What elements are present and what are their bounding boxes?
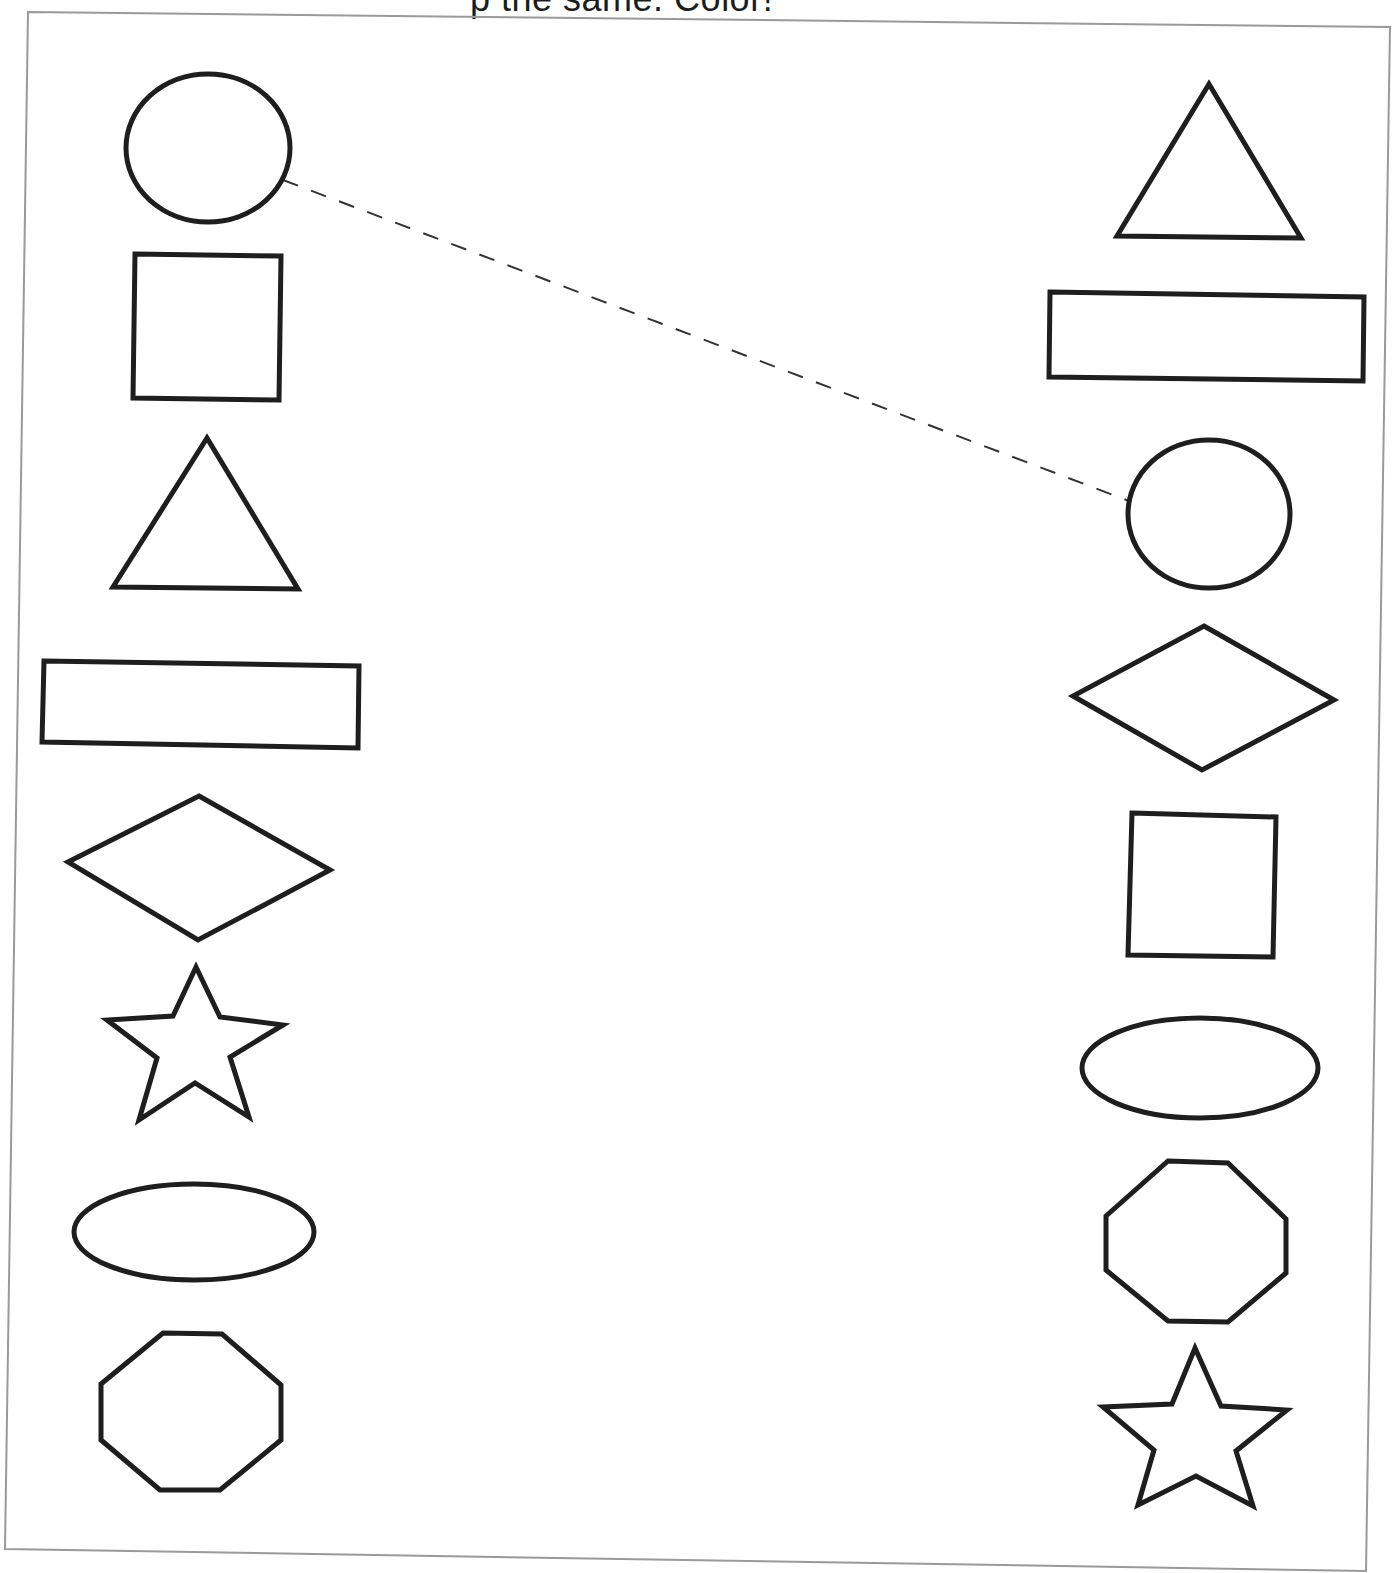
left-diamond-shape[interactable]	[68, 796, 330, 940]
right-square-shape[interactable]	[1128, 813, 1276, 957]
example-match-line	[283, 180, 1129, 501]
left-rectangle-shape[interactable]	[42, 661, 359, 748]
left-star-shape[interactable]	[107, 967, 283, 1120]
left-triangle-shape[interactable]	[113, 438, 298, 589]
left-octagon-shape[interactable]	[101, 1333, 281, 1490]
right-rectangle-shape[interactable]	[1049, 292, 1364, 381]
right-star-shape[interactable]	[1103, 1348, 1287, 1506]
left-column	[42, 74, 359, 1490]
right-circle-shape[interactable]	[1128, 440, 1290, 588]
right-diamond-shape[interactable]	[1073, 626, 1334, 770]
left-square-shape[interactable]	[133, 254, 281, 400]
worksheet-canvas	[0, 0, 1395, 1573]
page-frame	[5, 12, 1390, 1571]
left-circle-shape[interactable]	[126, 74, 290, 222]
right-triangle-shape[interactable]	[1117, 84, 1301, 238]
right-octagon-shape[interactable]	[1106, 1161, 1286, 1322]
right-column	[1049, 84, 1364, 1506]
left-oval-shape[interactable]	[74, 1184, 314, 1280]
right-oval-shape[interactable]	[1082, 1018, 1318, 1118]
